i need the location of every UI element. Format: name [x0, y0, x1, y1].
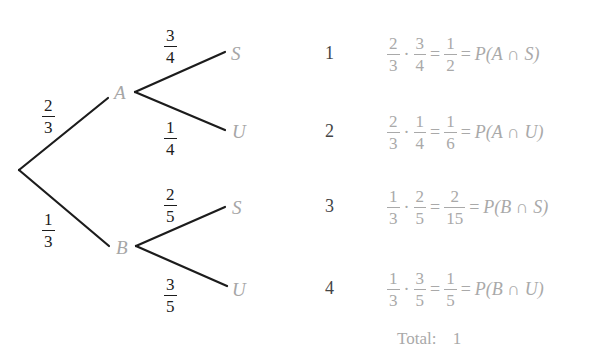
prob-a-u: 1 4 — [164, 119, 177, 158]
result: 215 — [444, 188, 465, 227]
branch-root-to-b — [19, 170, 109, 246]
factor-1: 23 — [387, 113, 400, 152]
outcome-row-3: 3 13 · 25 = 215 = P(B ∩ S) — [325, 188, 602, 228]
branch-a-to-s — [135, 52, 225, 92]
row-number: 3 — [325, 196, 334, 217]
branch-b-to-u — [136, 246, 227, 286]
outcome-row-1: 1 23 · 34 = 12 = P(A ∩ S) — [325, 35, 602, 75]
total-label: Total: — [397, 329, 436, 348]
prob-root-a: 2 3 — [42, 97, 55, 136]
branch-b-to-s — [136, 207, 225, 246]
result: 16 — [444, 113, 457, 152]
outcome-equation: 23 · 14 = 16 = P(A ∩ U) — [387, 113, 543, 152]
outcome-equation: 23 · 34 = 12 = P(A ∩ S) — [387, 35, 539, 74]
factor-1: 13 — [387, 188, 400, 227]
node-a-u: U — [232, 122, 246, 141]
outcome-equation: 13 · 25 = 215 = P(B ∩ S) — [387, 188, 548, 227]
branch-a-to-u — [135, 92, 225, 130]
factor-2: 34 — [414, 35, 427, 74]
node-b-s: S — [232, 198, 242, 217]
result: 15 — [444, 270, 457, 309]
node-b-u: U — [232, 280, 246, 299]
row-number: 4 — [325, 278, 334, 299]
node-a-s: S — [231, 44, 241, 63]
row-number: 2 — [325, 121, 334, 142]
outcome-equation: 13 · 35 = 15 = P(B ∩ U) — [387, 270, 544, 309]
prob-a-s: 3 4 — [164, 27, 177, 66]
factor-2: 14 — [414, 113, 427, 152]
prob-b-s: 2 5 — [164, 186, 177, 225]
prob-root-b: 1 3 — [42, 211, 55, 250]
factor-1: 23 — [387, 35, 400, 74]
event-label: P(A ∩ U) — [475, 122, 544, 143]
total-value: 1 — [453, 329, 462, 348]
branch-root-to-a — [19, 98, 108, 170]
prob-b-u: 3 5 — [164, 276, 177, 315]
row-number: 1 — [325, 43, 334, 64]
factor-2: 25 — [414, 188, 427, 227]
node-a: A — [114, 83, 126, 102]
outcome-row-4: 4 13 · 35 = 15 = P(B ∩ U) — [325, 270, 602, 310]
event-label: P(A ∩ S) — [475, 44, 540, 65]
outcome-row-2: 2 23 · 14 = 16 = P(A ∩ U) — [325, 113, 602, 153]
factor-2: 35 — [414, 270, 427, 309]
event-label: P(B ∩ S) — [483, 197, 548, 218]
result: 12 — [444, 35, 457, 74]
event-label: P(B ∩ U) — [475, 279, 544, 300]
node-b: B — [116, 238, 128, 257]
total-row: Total: 1 — [397, 329, 461, 349]
factor-1: 13 — [387, 270, 400, 309]
